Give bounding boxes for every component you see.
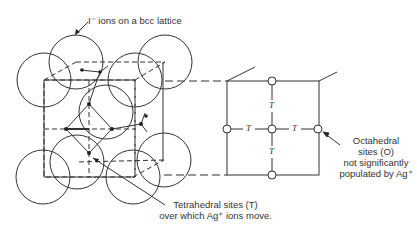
tetrahedral-mark: T <box>292 123 297 134</box>
octahedral-site <box>223 125 231 133</box>
ion-body-center <box>79 85 133 139</box>
octahedral-site <box>268 77 276 85</box>
tetrahedral-mark: T <box>269 146 274 157</box>
octa-line-2: sites (O) <box>336 146 416 157</box>
tetra-line-2: over which Ag⁺ ions move. <box>158 210 273 221</box>
octahedral-site <box>268 125 276 133</box>
tetrahedral-sites-label: Tetrahedral sites (T) over which Ag⁺ ion… <box>158 199 273 221</box>
octa-line-3: not significantly <box>336 157 416 168</box>
tetra-line-1: Tetrahedral sites (T) <box>158 199 273 210</box>
octahedral-site <box>268 171 276 179</box>
octa-line-1: Octahedral <box>336 135 416 146</box>
bcc-lattice-label: I⁻ ions on a bcc lattice <box>88 15 182 26</box>
face-diagram <box>227 67 337 175</box>
bcc-lattice-diagram <box>0 0 417 230</box>
tetrahedral-mark: T <box>269 100 274 111</box>
octahedral-sites-label: Octahedral sites (O) not significantly p… <box>336 135 416 179</box>
tetrahedral-mark: T <box>246 123 251 134</box>
octa-line-4: populated by Ag⁺ <box>336 168 416 179</box>
octahedral-site <box>314 125 322 133</box>
